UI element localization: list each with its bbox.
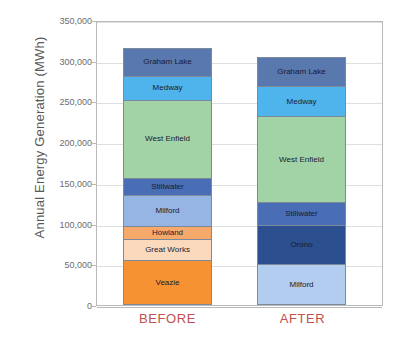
bar-segment[interactable]: Graham Lake (124, 49, 211, 77)
y-axis-tick-label: 250,000 (12, 97, 92, 107)
y-axis-tick-label: 350,000 (12, 16, 92, 26)
bar-before[interactable]: Graham LakeMedwayWest EnfieldStillwaterM… (123, 48, 212, 305)
y-axis-tick-label: 300,000 (12, 57, 92, 67)
bar-segment-label: Orono (290, 241, 312, 249)
category-label-after: AFTER (231, 311, 374, 326)
gridline (97, 22, 382, 23)
bar-segment[interactable]: Milford (124, 196, 211, 227)
stacked-bar-chart: Annual Energy Generation (MWh) 350,00030… (0, 0, 399, 341)
y-axis-tick-label: 100,000 (12, 220, 92, 230)
bar-segment[interactable]: Medway (258, 87, 345, 118)
bar-segment-label: Veazie (155, 279, 179, 287)
bar-segment-label: Great Works (145, 246, 190, 254)
bar-segment[interactable]: Veazie (124, 261, 211, 304)
y-axis-tick-label: 0 (12, 301, 92, 311)
bar-segment[interactable]: Milford (258, 265, 345, 304)
bar-segment[interactable]: Stillwater (258, 203, 345, 226)
bar-segment-label: West Enfield (145, 135, 190, 143)
y-axis-tick-label: 50,000 (12, 260, 92, 270)
bar-segment-label: Stillwater (285, 210, 317, 218)
bar-segment[interactable]: Howland (124, 227, 211, 241)
bar-segment-label: Stillwater (151, 183, 183, 191)
bar-segment-label: Medway (287, 98, 317, 106)
bar-segment-label: Medway (153, 84, 183, 92)
bar-segment[interactable]: West Enfield (258, 117, 345, 202)
y-axis-tick-mark (92, 306, 96, 307)
bar-segment-label: Milford (289, 281, 313, 289)
bar-segment-label: Graham Lake (143, 58, 191, 66)
bar-segment-label: Graham Lake (277, 68, 325, 76)
bar-segment-label: Howland (152, 229, 183, 237)
y-axis-tick-label: 150,000 (12, 179, 92, 189)
bar-segment[interactable]: Great Works (124, 240, 211, 261)
bar-segment[interactable]: Medway (124, 77, 211, 101)
y-axis-tick-label: 200,000 (12, 138, 92, 148)
category-label-before: BEFORE (96, 311, 239, 326)
plot-area: Graham LakeMedwayWest EnfieldStillwaterM… (96, 21, 383, 306)
bar-segment[interactable]: West Enfield (124, 101, 211, 179)
bar-after[interactable]: Graham LakeMedwayWest EnfieldStillwaterO… (257, 57, 346, 305)
bar-segment-label: Milford (155, 207, 179, 215)
bar-segment-label: West Enfield (279, 156, 324, 164)
gridline (97, 307, 382, 308)
bar-segment[interactable]: Graham Lake (258, 58, 345, 87)
bar-segment[interactable]: Stillwater (124, 179, 211, 196)
bar-segment[interactable]: Orono (258, 226, 345, 266)
